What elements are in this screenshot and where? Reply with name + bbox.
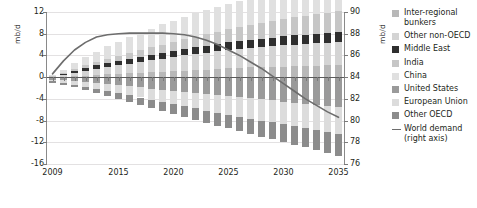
bar-segment: [93, 65, 100, 68]
bar-segment: [148, 29, 155, 48]
bar-segment: [280, 102, 287, 125]
left-tick-mark: [43, 55, 47, 56]
bar-segment: [181, 106, 188, 117]
bar-segment: [335, 11, 342, 32]
right-axis-spine: [344, 12, 345, 164]
bar-segment: [192, 108, 199, 119]
bar-segment: [126, 53, 133, 59]
bar-segment: [258, 121, 265, 137]
bar-segment: [225, 29, 232, 42]
bar-segment: [192, 13, 199, 36]
bar-group: [148, 12, 155, 164]
bar-segment: [225, 42, 232, 50]
legend-item-label: China: [404, 71, 427, 81]
bar-segment: [313, 77, 320, 105]
bar-group: [71, 12, 78, 164]
bar-segment: [247, 25, 254, 40]
bar-segment: [280, 124, 287, 142]
bar-segment: [236, 49, 243, 68]
bar-group: [192, 12, 199, 164]
right-tick-mark: [344, 142, 348, 143]
bar-segment: [269, 46, 276, 67]
bar-segment: [159, 53, 166, 59]
bar-segment: [60, 74, 67, 75]
chart-figure: mb/d mb/d 12840-4-8-12-16 90888684828078…: [0, 0, 477, 208]
right-tick-label: 82: [350, 95, 360, 103]
bar-segment: [258, 47, 265, 67]
legend-item[interactable]: World demand (right axis): [392, 124, 477, 144]
bar-group: [291, 12, 298, 164]
bar-segment: [82, 71, 89, 76]
bar-segment: [258, 0, 265, 23]
bar-group: [137, 12, 144, 164]
x-axis-labels: 200920152020202520302035: [47, 168, 344, 182]
bar-segment: [49, 81, 56, 82]
bar-segment: [225, 68, 232, 77]
bar-segment: [324, 77, 331, 106]
x-axis-tick-label: 2015: [108, 168, 128, 177]
bar-segment: [258, 23, 265, 38]
bar-segment: [203, 53, 210, 70]
bar-segment: [291, 35, 298, 44]
bar-segment: [104, 67, 111, 75]
bar-segment: [71, 85, 78, 87]
legend-item[interactable]: Middle East: [392, 44, 477, 54]
legend-item[interactable]: Inter-regional bunkers: [392, 8, 477, 28]
bar-segment: [335, 134, 342, 156]
bar-segment: [170, 57, 177, 71]
bar-segment: [269, 67, 276, 77]
legend-item[interactable]: China: [392, 71, 477, 81]
bar-segment: [313, 66, 320, 77]
bar-segment: [324, 132, 331, 153]
bar-group: [324, 12, 331, 164]
x-tick-mark: [141, 77, 142, 81]
x-tick-mark: [273, 77, 274, 81]
legend-item-label: Middle East: [404, 44, 450, 54]
bar-segment: [214, 51, 221, 69]
left-tick-mark: [43, 34, 47, 35]
bar-segment: [236, 1, 243, 27]
bar-segment: [104, 59, 111, 63]
left-tick-mark: [43, 142, 47, 143]
bar-group: [236, 12, 243, 164]
bar-segment: [181, 39, 188, 49]
bar-segment: [236, 68, 243, 77]
bar-segment: [335, 77, 342, 107]
bar-segment: [137, 50, 144, 57]
x-tick-mark: [196, 77, 197, 81]
bar-segment: [104, 63, 111, 67]
legend-item[interactable]: United States: [392, 84, 477, 94]
right-tick-label: 76: [350, 160, 360, 168]
right-tick-mark: [344, 121, 348, 122]
bar-segment: [214, 7, 221, 32]
bar-segment: [203, 70, 210, 78]
bar-segment: [82, 57, 89, 65]
bar-segment: [258, 67, 265, 77]
bar-segment: [280, 19, 287, 36]
x-axis-tick-label: 2025: [218, 168, 238, 177]
legend-item[interactable]: India: [392, 58, 477, 68]
bar-segment: [181, 17, 188, 39]
bar-group: [335, 12, 342, 164]
x-tick-mark: [229, 77, 230, 81]
bar-segment: [324, 43, 331, 66]
bar-group: [302, 12, 309, 164]
left-tick-mark: [43, 99, 47, 100]
legend-item[interactable]: Other non-OECD: [392, 31, 477, 41]
legend-color-swatch: [392, 33, 399, 40]
bar-segment: [93, 89, 100, 93]
x-tick-mark: [240, 77, 241, 81]
bar-group: [280, 12, 287, 164]
x-tick-mark: [97, 77, 98, 81]
bar-segment: [192, 70, 199, 77]
bar-segment: [335, 65, 342, 77]
bar-segment: [313, 130, 320, 150]
legend-item[interactable]: European Union: [392, 97, 477, 107]
bar-segment: [137, 87, 144, 97]
bar-segment: [181, 55, 188, 70]
legend-item[interactable]: Other OECD: [392, 110, 477, 120]
bar-segment: [324, 65, 331, 77]
bar-segment: [170, 42, 177, 51]
bar-segment: [214, 69, 221, 77]
bar-segment: [302, 44, 309, 66]
